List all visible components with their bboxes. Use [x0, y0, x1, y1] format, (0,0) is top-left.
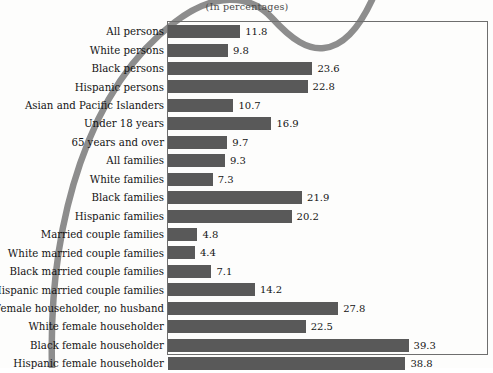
bar — [168, 99, 233, 112]
bar-value-label: 4.8 — [202, 228, 218, 241]
bar-and-value: 20.2 — [168, 210, 319, 223]
category-label: All families — [0, 154, 164, 167]
bar-rows: All persons11.8White persons9.8Black per… — [0, 21, 493, 355]
bar-and-value: 4.8 — [168, 228, 218, 241]
bar-value-label: 16.9 — [276, 117, 298, 130]
bar-value-label: 9.7 — [232, 136, 248, 149]
bar-row: Female householder, no husband27.8 — [0, 299, 493, 317]
bar-value-label: 4.4 — [200, 246, 216, 259]
bar-value-label: 22.5 — [311, 320, 333, 333]
bar-row: Hispanic married couple families14.2 — [0, 281, 493, 299]
bar-and-value: 38.8 — [168, 357, 433, 370]
bar-row: Married couple families4.8 — [0, 225, 493, 243]
bar-value-label: 9.8 — [233, 44, 249, 57]
bar-value-label: 14.2 — [260, 283, 282, 296]
bar-value-label: 21.9 — [307, 191, 329, 204]
bar-row: Hispanic families20.2 — [0, 207, 493, 225]
bar-value-label: 22.8 — [313, 80, 335, 93]
bar-value-label: 27.8 — [343, 302, 365, 315]
bar — [168, 265, 211, 278]
bar-row: Under 18 years16.9 — [0, 115, 493, 133]
bar-row: 65 years and over9.7 — [0, 133, 493, 151]
bar-value-label: 20.2 — [297, 210, 319, 223]
category-label: Black families — [0, 191, 164, 204]
category-label: Female householder, no husband — [0, 302, 164, 315]
category-label: All persons — [0, 25, 164, 38]
bar-and-value: 11.8 — [168, 25, 267, 38]
bar-and-value: 22.8 — [168, 80, 335, 93]
bar-row: Black families21.9 — [0, 189, 493, 207]
bar — [168, 136, 227, 149]
category-label: Black persons — [0, 62, 164, 75]
category-label: Black married couple families — [0, 265, 164, 278]
bar — [168, 117, 271, 130]
bar-and-value: 22.5 — [168, 320, 333, 333]
bar-and-value: 7.1 — [168, 265, 232, 278]
bar-and-value: 27.8 — [168, 302, 365, 315]
bar — [168, 357, 405, 370]
bar-and-value: 14.2 — [168, 283, 282, 296]
bar-row: White married couple families4.4 — [0, 244, 493, 262]
category-label: White families — [0, 173, 164, 186]
category-label: Black female householder — [0, 339, 164, 352]
bar-value-label: 11.8 — [245, 25, 267, 38]
category-label: White persons — [0, 44, 164, 57]
category-label: Under 18 years — [0, 117, 164, 130]
category-label: 65 years and over — [0, 136, 164, 149]
category-label: White female householder — [0, 320, 164, 333]
bar — [168, 173, 213, 186]
bar-value-label: 39.3 — [414, 339, 436, 352]
bar-row: White female householder22.5 — [0, 318, 493, 336]
bar — [168, 210, 292, 223]
bar-and-value: 10.7 — [168, 99, 261, 112]
bar-value-label: 9.3 — [230, 154, 246, 167]
bar-row: Hispanic female householder38.8 — [0, 355, 493, 373]
bar — [168, 62, 312, 75]
bar-row: Black female householder39.3 — [0, 336, 493, 354]
bar — [168, 320, 306, 333]
bar — [168, 80, 308, 93]
bar-row: Black persons23.6 — [0, 59, 493, 77]
category-label: Married couple families — [0, 228, 164, 241]
bar-and-value: 7.3 — [168, 173, 234, 186]
category-label: Hispanic female householder — [0, 357, 164, 370]
bar — [168, 191, 302, 204]
bar-value-label: 38.8 — [410, 357, 432, 370]
bar-and-value: 9.3 — [168, 154, 246, 167]
bar — [168, 283, 255, 296]
bar-row: White persons9.8 — [0, 41, 493, 59]
chart-title: (In percentages) — [167, 1, 327, 12]
bar-value-label: 7.1 — [216, 265, 232, 278]
bar-row: Asian and Pacific Islanders10.7 — [0, 96, 493, 114]
category-label: White married couple families — [0, 247, 164, 260]
bar-row: White families7.3 — [0, 170, 493, 188]
bar-and-value: 9.7 — [168, 136, 248, 149]
bar — [168, 228, 197, 241]
bar — [168, 246, 195, 259]
bar-and-value: 21.9 — [168, 191, 329, 204]
bar — [168, 25, 240, 38]
category-label: Hispanic married couple families — [0, 284, 164, 297]
bar — [168, 339, 409, 352]
bar-row: Hispanic persons22.8 — [0, 78, 493, 96]
bar-and-value: 23.6 — [168, 62, 340, 75]
bar — [168, 302, 338, 315]
bar-value-label: 10.7 — [238, 99, 260, 112]
bar-and-value: 39.3 — [168, 339, 436, 352]
bar — [168, 44, 228, 57]
category-label: Hispanic persons — [0, 81, 164, 94]
bar-and-value: 16.9 — [168, 117, 299, 130]
category-label: Asian and Pacific Islanders — [0, 99, 164, 112]
bar-and-value: 9.8 — [168, 44, 249, 57]
bar-row: Black married couple families7.1 — [0, 262, 493, 280]
bar-and-value: 4.4 — [168, 246, 216, 259]
category-label: Hispanic families — [0, 210, 164, 223]
bar-row: All families9.3 — [0, 152, 493, 170]
bar — [168, 154, 225, 167]
bar-value-label: 23.6 — [317, 62, 339, 75]
bar-value-label: 7.3 — [218, 173, 234, 186]
bar-row: All persons11.8 — [0, 23, 493, 41]
